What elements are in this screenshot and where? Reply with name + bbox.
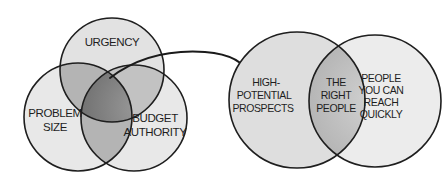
label-urgency: URGENCY xyxy=(85,36,140,48)
label-hpp-line1: HIGH- xyxy=(252,76,281,88)
label-problem-size-line1: PROBLEM xyxy=(28,107,81,119)
label-reach-line4: QUICKLY xyxy=(360,108,403,120)
left-venn: URGENCY PROBLEM SIZE BUDGET AUTHORITY xyxy=(24,18,187,171)
label-reach-line1: PEOPLE xyxy=(361,72,401,84)
label-budget-line1: BUDGET xyxy=(132,112,178,124)
label-hpp-line2: POTENTIAL xyxy=(237,89,292,101)
label-budget-line2: AUTHORITY xyxy=(124,126,188,138)
label-reach-line2: YOU CAN xyxy=(358,84,403,96)
venn-diagram-canvas: URGENCY PROBLEM SIZE BUDGET AUTHORITY HI… xyxy=(0,0,447,175)
label-reach-line3: REACH xyxy=(364,96,399,108)
label-right-people-line3: PEOPLE xyxy=(316,102,356,114)
label-right-people-line1: THE xyxy=(326,76,346,88)
right-venn: HIGH- POTENTIAL PROSPECTS THE RIGHT PEOP… xyxy=(229,32,441,168)
label-hpp-line3: PROSPECTS xyxy=(232,102,294,114)
label-problem-size-line2: SIZE xyxy=(43,121,68,133)
label-right-people-line2: RIGHT xyxy=(321,89,353,101)
